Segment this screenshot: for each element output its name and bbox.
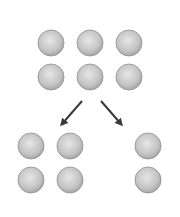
sphere-ball xyxy=(38,30,64,56)
right-group-two-balls xyxy=(135,133,161,193)
sphere-ball xyxy=(18,133,44,159)
sphere-ball xyxy=(116,64,142,90)
top-group-six-balls xyxy=(38,30,142,90)
sphere-ball xyxy=(135,133,161,159)
sphere-ball xyxy=(77,64,103,90)
sphere-ball xyxy=(57,133,83,159)
arrow-right-icon xyxy=(101,101,121,124)
split-arrows xyxy=(62,101,121,124)
partition-diagram xyxy=(0,0,180,217)
sphere-ball xyxy=(135,167,161,193)
sphere-ball xyxy=(38,64,64,90)
sphere-ball xyxy=(116,30,142,56)
sphere-ball xyxy=(18,167,44,193)
left-group-four-balls xyxy=(18,133,83,193)
sphere-ball xyxy=(57,167,83,193)
sphere-ball xyxy=(77,30,103,56)
arrow-left-icon xyxy=(62,101,82,124)
